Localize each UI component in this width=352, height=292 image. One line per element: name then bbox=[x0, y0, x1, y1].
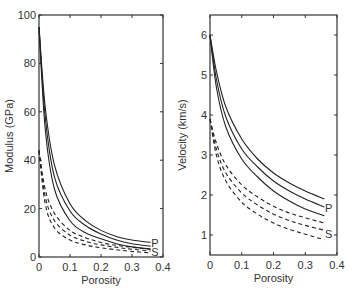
series-line bbox=[39, 27, 151, 242]
x-tick-label: 0.3 bbox=[298, 259, 313, 271]
figure: 00.10.20.30.4020406080100PorosityModulus… bbox=[0, 0, 352, 292]
velocity-plot: 00.10.20.30.4123456PorosityVelocity (km/… bbox=[176, 15, 345, 284]
x-axis-label: Porosity bbox=[254, 272, 294, 284]
x-tick-label: 0.3 bbox=[124, 261, 139, 273]
series-line bbox=[39, 27, 151, 246]
modulus-plot: 00.10.20.30.4020406080100PorosityModulus… bbox=[3, 9, 171, 286]
series-line bbox=[210, 119, 324, 240]
series-line bbox=[210, 35, 324, 207]
x-tick-label: 0.1 bbox=[62, 261, 77, 273]
y-tick-label: 1 bbox=[201, 229, 207, 241]
s-wave-label: S bbox=[325, 228, 332, 240]
x-tick-label: 0.1 bbox=[234, 259, 249, 271]
y-tick-label: 0 bbox=[30, 251, 36, 263]
y-tick-label: 60 bbox=[24, 106, 36, 118]
x-tick-label: 0.2 bbox=[93, 261, 108, 273]
y-tick-label: 2 bbox=[201, 189, 207, 201]
y-tick-label: 3 bbox=[201, 149, 207, 161]
x-tick-label: 0 bbox=[36, 261, 42, 273]
x-tick-label: 0.4 bbox=[155, 261, 170, 273]
y-tick-label: 5 bbox=[201, 69, 207, 81]
x-tick-label: 0 bbox=[207, 259, 213, 271]
series-line bbox=[39, 151, 151, 250]
series-line bbox=[210, 119, 324, 230]
plot-frame bbox=[39, 15, 163, 257]
y-axis-label: Velocity (km/s) bbox=[176, 99, 188, 171]
y-tick-label: 4 bbox=[201, 109, 207, 121]
x-tick-label: 0.2 bbox=[266, 259, 281, 271]
series-line bbox=[39, 151, 151, 253]
p-wave-label: P bbox=[325, 202, 332, 214]
series-line bbox=[210, 35, 324, 216]
series-line bbox=[39, 151, 151, 251]
y-tick-label: 40 bbox=[24, 154, 36, 166]
x-axis-label: Porosity bbox=[81, 274, 121, 286]
series-line bbox=[39, 27, 151, 249]
s-wave-label: S bbox=[151, 246, 158, 258]
y-tick-label: 20 bbox=[24, 203, 36, 215]
y-tick-label: 100 bbox=[18, 9, 36, 21]
y-tick-label: 6 bbox=[201, 29, 207, 41]
x-tick-label: 0.4 bbox=[329, 259, 344, 271]
series-line bbox=[210, 119, 324, 223]
y-tick-label: 80 bbox=[24, 57, 36, 69]
y-axis-label: Modulus (GPa) bbox=[3, 99, 15, 173]
